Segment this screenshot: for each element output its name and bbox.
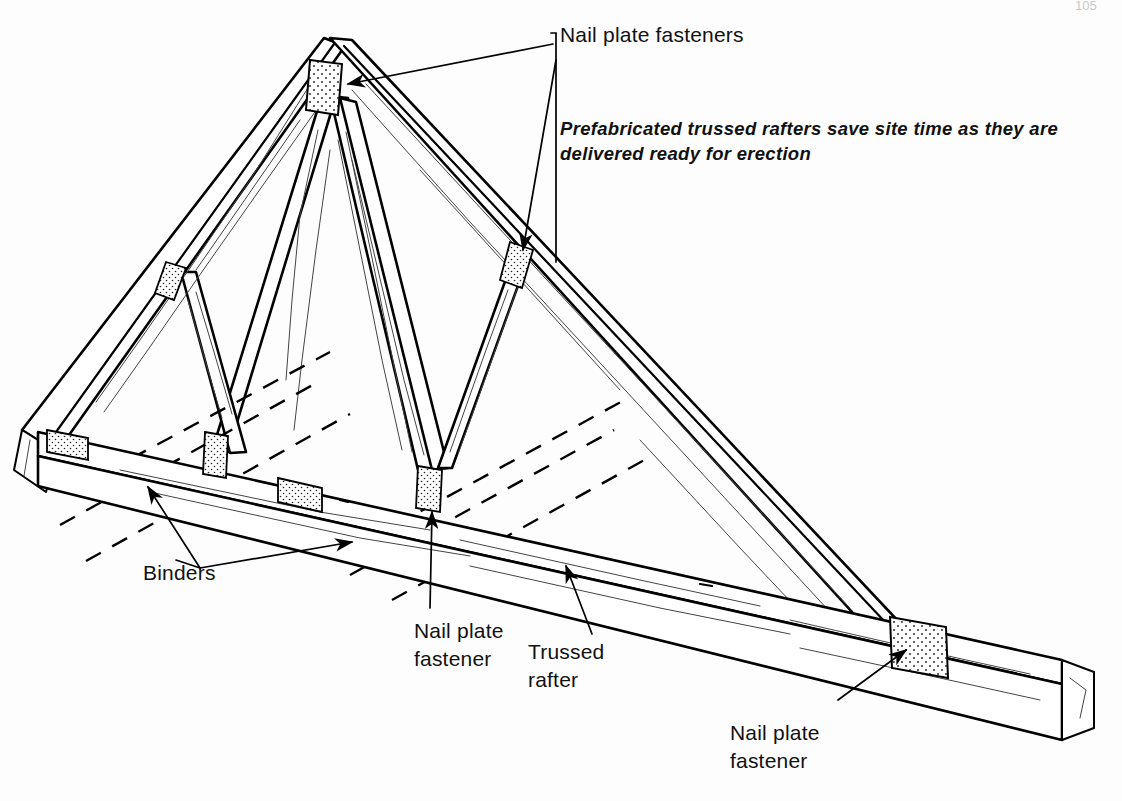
caption-line-2: delivered ready for erection (560, 143, 811, 164)
label-nail-plate-right-line2: fastener (730, 749, 807, 772)
web-members (181, 95, 528, 470)
label-trussed-rafter-line2: rafter (528, 668, 578, 691)
leader-to-right-rafter-plate (523, 60, 556, 250)
label-nail-plate-right-line1: Nail plate (730, 721, 820, 744)
tie-beam (38, 432, 1094, 740)
label-trussed-rafter-line1: Trussed (528, 640, 604, 663)
label-nail-plate-centre-line2: fastener (414, 647, 491, 670)
nail-plate-tie-centre (416, 466, 442, 512)
label-binders: Binders (143, 561, 216, 584)
nail-plate-apex (306, 60, 342, 115)
nail-plate-right-heel (890, 617, 948, 678)
nail-plate-right-rafter-web (500, 242, 533, 288)
nail-plate-tie-left-web (203, 432, 228, 478)
web-right-outer (438, 258, 528, 468)
caption-line-1: Prefabricated trussed rafters save site … (560, 118, 1058, 139)
trussed-rafter-illustration: Nail plate fasteners Prefabricated truss… (0, 0, 1122, 801)
label-nail-plate-centre-line1: Nail plate (414, 619, 504, 642)
label-nail-plate-fasteners-top: Nail plate fasteners (560, 23, 744, 46)
figure-canvas: Nail plate fasteners Prefabricated truss… (0, 0, 1122, 801)
leader-to-apex-plate (348, 44, 553, 84)
page-number: 105 (1075, 0, 1097, 13)
